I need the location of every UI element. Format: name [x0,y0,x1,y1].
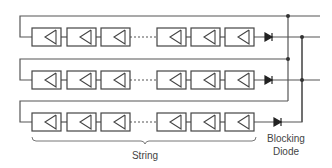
string-label: String [125,149,165,162]
blocking-diode-label-line1: Blocking [258,132,314,145]
pv-array-diagram: String Blocking Diode [0,0,332,168]
string-brace [32,137,256,144]
blocking-diode-label-line2: Diode [258,145,314,158]
junction-dots [286,14,304,82]
